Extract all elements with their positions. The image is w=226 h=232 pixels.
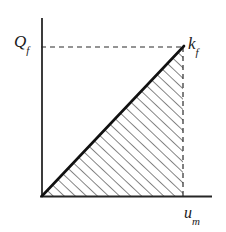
apex-label: kf [188,35,199,55]
x-axis-value-label: um [184,205,200,224]
y-axis-value-subscript: f [26,44,29,56]
x-axis-value-subscript: m [192,215,200,227]
apex-label-subscript: f [196,46,199,58]
y-axis-value-base: Q [14,32,26,51]
apex-label-base: k [188,34,196,53]
y-axis-value-label: Qf [14,33,29,53]
x-axis-value-base: u [184,204,192,221]
figure-canvas: Qf kf um [0,0,226,232]
